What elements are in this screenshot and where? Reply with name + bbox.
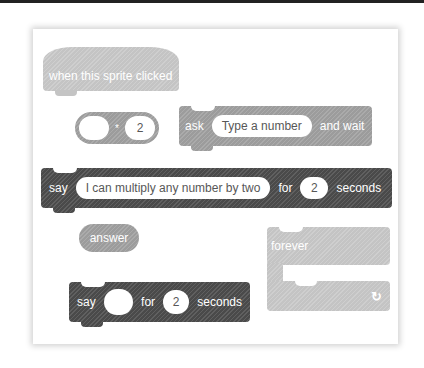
seconds-label: seconds (197, 295, 242, 309)
ask-and-wait-block[interactable]: ask Type a number and wait (179, 106, 372, 146)
forever-loop-block[interactable]: forever ↻ (267, 227, 390, 311)
say-for-seconds-block-empty[interactable]: say for 2 seconds (69, 282, 250, 322)
block-notch (191, 106, 215, 111)
loop-arrow-icon: ↻ (371, 289, 382, 304)
say-message-input[interactable] (104, 289, 133, 315)
forever-bottom-arm: ↻ (267, 281, 390, 311)
block-connector (55, 90, 77, 96)
for-label: for (278, 181, 292, 195)
say-message-input[interactable]: I can multiply any number by two (76, 177, 271, 199)
when-sprite-clicked-block[interactable]: when this sprite clicked (43, 47, 179, 91)
say-label: say (77, 295, 96, 309)
block-label: when this sprite clicked (49, 69, 172, 83)
block-notch (279, 227, 303, 232)
ask-question-input[interactable]: Type a number (212, 115, 312, 137)
say-label: say (49, 181, 68, 195)
ask-label: ask (185, 119, 204, 133)
answer-label: answer (90, 231, 129, 245)
seconds-input[interactable]: 2 (300, 177, 328, 199)
block-notch (81, 282, 105, 287)
inner-notch (295, 281, 317, 286)
operator-symbol: * (115, 123, 119, 134)
multiply-operator-block[interactable]: * 2 (75, 112, 159, 144)
forever-side-arm (267, 263, 283, 283)
block-notch (53, 168, 77, 173)
seconds-label: seconds (336, 181, 381, 195)
seconds-input[interactable]: 2 (163, 290, 189, 314)
top-border (0, 0, 424, 3)
forever-label: forever (271, 239, 308, 253)
say-for-seconds-block[interactable]: say I can multiply any number by two for… (41, 168, 392, 208)
and-wait-label: and wait (320, 119, 365, 133)
operator-right-input[interactable]: 2 (125, 116, 155, 140)
block-palette-panel: when this sprite clicked * 2 ask Type a … (33, 29, 398, 344)
for-label: for (141, 295, 155, 309)
answer-reporter-block[interactable]: answer (79, 224, 139, 252)
operator-left-input[interactable] (79, 116, 109, 140)
forever-top-arm: forever (267, 227, 390, 265)
